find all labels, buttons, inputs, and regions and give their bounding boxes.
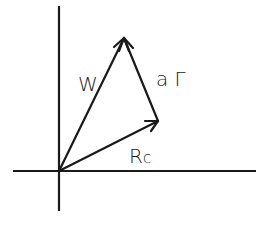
label-a-gamma: a Γ	[156, 67, 187, 91]
label-r-c: Rc	[129, 144, 151, 168]
label-w: W	[78, 72, 98, 96]
vector-a-gamma	[119, 38, 158, 121]
vector-diagram: W a Γ Rc	[0, 0, 271, 227]
label-r-subscript: c	[143, 149, 151, 167]
vector-w	[59, 38, 129, 171]
label-r-main: R	[129, 144, 143, 168]
